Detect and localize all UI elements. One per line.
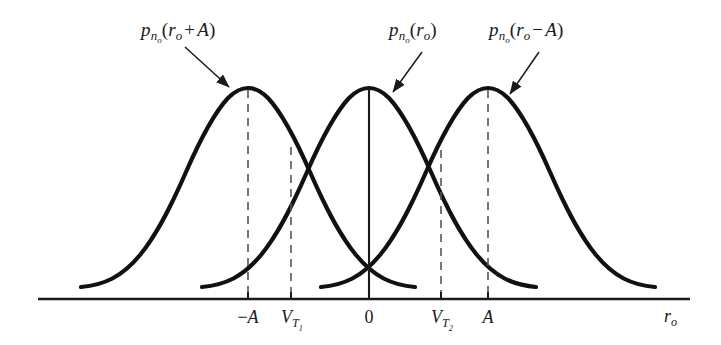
axis-r: r [664, 306, 671, 326]
label-p: p [489, 19, 499, 40]
annotation-arrow-left [185, 47, 229, 87]
threshold-index: 1 [299, 324, 303, 333]
x-axis-label: ro [664, 306, 677, 330]
plot-canvas [0, 0, 721, 345]
label-operator: − [530, 19, 545, 40]
threshold-index: 2 [449, 324, 453, 333]
annotation-arrow-right [510, 52, 539, 94]
threshold-v: V [431, 307, 442, 327]
label-close-paren: ) [430, 19, 437, 40]
label-operator: + [182, 19, 197, 40]
label-r: r [516, 19, 524, 40]
curve-label-right: pno(ro−A) [489, 19, 564, 45]
amplitude: A [248, 307, 259, 327]
amplitude: A [483, 307, 494, 327]
figure-container: pno(ro+A) pno(ro) pno(ro−A) −A VT1 0 VT2… [0, 0, 721, 345]
tick-label-minus-a: −A [228, 307, 268, 328]
annotation-arrow-center [393, 52, 422, 92]
threshold-t: T [442, 316, 449, 330]
label-r: r [416, 19, 424, 40]
threshold-t: T [292, 316, 299, 330]
label-p: p [141, 19, 151, 40]
label-amplitude: A [197, 19, 209, 40]
curve-pdf-left [81, 88, 415, 287]
zero-value: 0 [365, 307, 374, 327]
label-amplitude: A [545, 19, 557, 40]
minus-sign: − [237, 307, 247, 327]
axis-r-subscript: o [671, 315, 677, 329]
label-p: p [389, 19, 399, 40]
curve-label-center: pno(ro) [389, 19, 437, 45]
curve-label-left: pno(ro+A) [141, 19, 216, 45]
tick-label-zero: 0 [354, 307, 384, 328]
label-r: r [168, 19, 176, 40]
label-close-paren: ) [209, 19, 216, 40]
tick-label-a: A [473, 307, 503, 328]
label-close-paren: ) [557, 19, 564, 40]
tick-label-vt1: VT1 [270, 307, 314, 333]
curve-pdf-right [321, 88, 655, 287]
threshold-v: V [281, 307, 292, 327]
tick-label-vt2: VT2 [420, 307, 464, 333]
